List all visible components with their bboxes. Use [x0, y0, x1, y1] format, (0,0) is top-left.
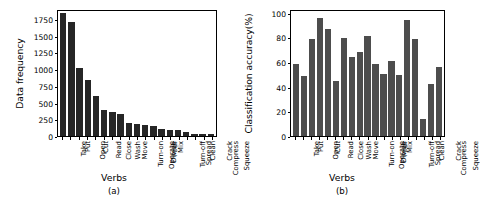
y-tick-mark [55, 104, 58, 105]
bar [325, 29, 331, 136]
bar [101, 110, 107, 136]
x-tick-mark [145, 137, 146, 140]
bar [117, 114, 123, 136]
bar [199, 134, 205, 136]
y-tick-label: 1500 [29, 32, 53, 41]
x-tick-mark [79, 137, 80, 140]
x-tick-label: Cut [334, 141, 342, 153]
x-tick-mark [295, 137, 296, 140]
bar [317, 18, 323, 136]
x-tick-mark [195, 137, 196, 140]
bar [293, 64, 299, 136]
y-tick-mark [288, 112, 291, 113]
x-tick-mark [335, 137, 336, 140]
x-tick-mark [112, 137, 113, 140]
y-tick-label: 1000 [29, 66, 53, 75]
x-tick-mark [384, 137, 385, 140]
x-tick-label: Read [347, 141, 355, 158]
x-tick-label: Close [125, 141, 133, 160]
bar [60, 13, 66, 136]
x-tick-label: Clean [438, 141, 446, 161]
bar [109, 112, 115, 136]
y-tick-mark [55, 53, 58, 54]
x-tick-mark [70, 137, 71, 140]
x-tick-mark [95, 137, 96, 140]
x-tick-mark [319, 137, 320, 140]
subplot-b: Classification accuracy(%) 020406080100 … [228, 0, 456, 207]
x-tick-mark [368, 137, 369, 140]
bar [364, 36, 370, 136]
y-tick-mark [55, 120, 58, 121]
x-axis-title-a: Verbs [0, 172, 228, 183]
x-tick-label: Move [141, 141, 149, 159]
x-tick-label: Move [372, 141, 380, 159]
x-tick-label: Close [357, 141, 365, 160]
y-tick-mark [288, 88, 291, 89]
bar [158, 129, 164, 136]
bar [404, 20, 410, 136]
x-tick-label: Cut [102, 141, 110, 153]
y-tick-label: 750 [29, 82, 53, 91]
y-axis-label-a: Data frequency [14, 19, 25, 129]
bar [372, 64, 378, 136]
x-tick-label: Put [84, 141, 92, 152]
x-axis-title-b: Verbs [228, 172, 456, 183]
y-tick-mark [288, 38, 291, 39]
x-tick-mark [311, 137, 312, 140]
bar [428, 84, 434, 136]
bar [142, 125, 148, 136]
bar [420, 119, 426, 136]
y-tick-mark [288, 63, 291, 64]
x-tick-mark [424, 137, 425, 140]
x-tick-label: Squeeze [472, 141, 480, 170]
y-tick-label: 20 [262, 108, 286, 117]
y-tick-label: 500 [29, 99, 53, 108]
x-tick-mark [104, 137, 105, 140]
x-tick-label: Mix [176, 141, 184, 153]
y-axis-label-b: Classification accuracy(%) [243, 0, 254, 149]
bar [85, 80, 91, 136]
bar [175, 130, 181, 136]
y-tick-label: 60 [262, 59, 286, 68]
bar [349, 57, 355, 136]
x-tick-mark [343, 137, 344, 140]
y-tick-label: 100 [262, 9, 286, 18]
x-tick-mark [416, 137, 417, 140]
bar [436, 67, 442, 136]
bar [134, 124, 140, 137]
x-tick-mark [187, 137, 188, 140]
plot-area-b [290, 10, 445, 137]
x-tick-mark [170, 137, 171, 140]
bar [93, 96, 99, 136]
y-tick-mark [55, 37, 58, 38]
bar [396, 75, 402, 136]
x-tick-mark [327, 137, 328, 140]
x-tick-mark [179, 137, 180, 140]
x-tick-label: Wash [365, 141, 373, 160]
subplot-a: Data frequency 0250500750100012501500175… [0, 0, 228, 207]
bar-series-b [291, 11, 444, 136]
x-tick-mark [303, 137, 304, 140]
bar-series-a [58, 11, 216, 136]
y-tick-mark [55, 70, 58, 71]
bar [126, 123, 132, 136]
x-tick-mark [154, 137, 155, 140]
x-tick-mark [162, 137, 163, 140]
x-tick-mark [408, 137, 409, 140]
y-tick-label: 0 [29, 133, 53, 142]
bar [380, 74, 386, 137]
x-tick-mark [376, 137, 377, 140]
x-tick-label: Turn-on [157, 141, 165, 167]
x-tick-mark [440, 137, 441, 140]
subplot-caption-b: (b) [228, 186, 456, 196]
x-tick-mark [204, 137, 205, 140]
x-tick-mark [120, 137, 121, 140]
bar [412, 39, 418, 136]
bar [309, 39, 315, 136]
y-tick-mark [55, 20, 58, 21]
x-tick-label: Wash [133, 141, 141, 160]
y-tick-label: 40 [262, 83, 286, 92]
y-tick-mark [288, 137, 291, 138]
bar [76, 68, 82, 136]
